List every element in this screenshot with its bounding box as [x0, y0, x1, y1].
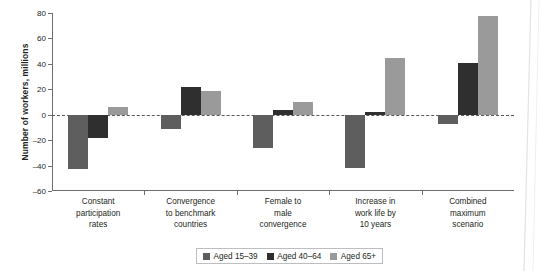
- bar: [478, 16, 498, 115]
- y-axis-tick: [48, 191, 52, 192]
- x-axis-category-label: Increase inwork life by10 years: [329, 196, 421, 231]
- x-axis-tick: [422, 191, 423, 195]
- x-axis-category-label: Convergenceto benchmarkcountries: [144, 196, 236, 231]
- chart-legend: Aged 15–39Aged 40–64Aged 65+: [196, 248, 383, 264]
- category-label-line: participation: [52, 208, 144, 220]
- y-axis-tick-label: –20: [33, 136, 46, 145]
- category-label-line: Convergence: [144, 196, 236, 208]
- bar: [345, 115, 365, 168]
- category-label-line: rates: [52, 219, 144, 231]
- category-label-line: scenario: [422, 219, 514, 231]
- plot-area: 806040200–20–40–60: [52, 13, 514, 191]
- x-axis-tick: [144, 191, 145, 195]
- legend-label: Aged 40–64: [277, 252, 321, 261]
- bar: [385, 58, 405, 115]
- category-label-line: convergence: [237, 219, 329, 231]
- bar: [438, 115, 458, 124]
- bar: [273, 110, 293, 115]
- category-label-line: maximum: [422, 208, 514, 220]
- chart-figure: Number of workers, millions 806040200–20…: [0, 0, 540, 271]
- bar: [201, 91, 221, 115]
- bar: [68, 115, 88, 170]
- x-axis-tick: [237, 191, 238, 195]
- bar: [458, 63, 478, 115]
- bar-group: [52, 13, 514, 191]
- bar: [88, 115, 108, 138]
- x-axis-category-labels: ConstantparticipationratesConvergenceto …: [52, 196, 514, 238]
- category-label-line: Female to: [237, 196, 329, 208]
- bar: [293, 102, 313, 115]
- y-axis-tick-label: 20: [37, 85, 46, 94]
- legend-item[interactable]: Aged 15–39: [203, 252, 258, 261]
- y-axis-tick-label: –60: [33, 187, 46, 196]
- category-label-line: 10 years: [329, 219, 421, 231]
- legend-swatch-icon: [267, 253, 274, 260]
- legend-label: Aged 65+: [341, 252, 376, 261]
- x-axis-tick: [329, 191, 330, 195]
- bar: [181, 87, 201, 115]
- y-axis-title: Number of workers, millions: [20, 17, 30, 187]
- category-label-line: to benchmark: [144, 208, 236, 220]
- legend-label: Aged 15–39: [214, 252, 258, 261]
- bar: [161, 115, 181, 129]
- legend-item[interactable]: Aged 40–64: [267, 252, 322, 261]
- y-axis-tick-label: 80: [37, 9, 46, 18]
- category-label-line: Constant: [52, 196, 144, 208]
- category-label-line: Combined: [422, 196, 514, 208]
- bar: [365, 112, 385, 115]
- legend-swatch-icon: [330, 253, 337, 260]
- y-axis-tick-label: –40: [33, 161, 46, 170]
- category-label-line: countries: [144, 219, 236, 231]
- category-label-line: male: [237, 208, 329, 220]
- x-axis-category-label: Combinedmaximumscenario: [422, 196, 514, 231]
- bar: [253, 115, 273, 148]
- legend-swatch-icon: [203, 253, 210, 260]
- category-label-line: work life by: [329, 208, 421, 220]
- bar: [108, 107, 128, 115]
- x-axis-category-label: Female tomaleconvergence: [237, 196, 329, 231]
- y-axis-tick-label: 0: [42, 110, 46, 119]
- y-axis-tick-label: 60: [37, 34, 46, 43]
- y-axis-tick-label: 40: [37, 59, 46, 68]
- x-axis-category-label: Constantparticipationrates: [52, 196, 144, 231]
- category-label-line: Increase in: [329, 196, 421, 208]
- legend-item[interactable]: Aged 65+: [330, 252, 376, 261]
